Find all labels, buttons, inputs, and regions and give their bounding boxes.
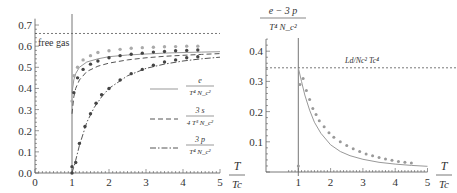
y-tick-label: 0.2 (18, 125, 32, 137)
y-tick-label: 0.1 (18, 146, 32, 158)
data-point (130, 52, 133, 55)
y-tick-label: 0.7 (18, 19, 32, 31)
data-point (163, 60, 166, 63)
data-point (89, 112, 92, 115)
data-point (83, 125, 86, 128)
data-point (96, 51, 99, 54)
data-point (76, 66, 79, 69)
x-tick-label: 4 (392, 176, 398, 188)
data-point (327, 131, 330, 134)
data-point (72, 74, 75, 77)
data-point (94, 102, 97, 105)
x-tick-label: 3 (143, 176, 149, 188)
data-point (141, 68, 144, 71)
data-point (196, 44, 199, 47)
legend-num: 3 p (194, 135, 205, 144)
data-point (345, 144, 348, 147)
data-point (358, 150, 361, 153)
data-point (107, 49, 110, 52)
data-point (89, 54, 92, 57)
x-tick-label: 2 (328, 176, 334, 188)
data-point (118, 78, 121, 81)
data-point (152, 46, 155, 49)
data-point (297, 164, 300, 167)
x-tick-label: 1 (296, 176, 302, 188)
x-tick-label: 0 (32, 176, 38, 188)
x-tick-label: 4 (180, 176, 186, 188)
data-point (130, 72, 133, 75)
y-tick-label: 0.6 (18, 40, 32, 52)
x-axis-label-num: T (441, 159, 449, 173)
y-tick-label: 0.0 (18, 167, 32, 179)
data-point (308, 98, 311, 101)
data-point (378, 156, 381, 159)
data-point (141, 51, 144, 54)
data-point (298, 83, 301, 86)
data-point (107, 56, 110, 59)
ld-label: Ld/Nc² Tc⁴ (344, 56, 379, 65)
data-point (174, 49, 177, 52)
data-point (397, 160, 400, 163)
y-tick-label: 0.1 (249, 136, 263, 148)
left-chart: 0123450.00.10.20.30.40.50.60.7TTcfree ga… (18, 14, 245, 190)
x-axis-label-den: Tc (232, 178, 242, 190)
data-point (339, 140, 342, 143)
data-point (81, 68, 84, 71)
legend: eT⁴ N_c²3 s4 T³ N_c²3 pT⁴ N_c² (150, 76, 214, 156)
y-axis-label-num: e − 3 p (269, 5, 298, 16)
data-point (96, 59, 99, 62)
data-point (196, 48, 199, 51)
data-point (152, 50, 155, 53)
data-point (130, 47, 133, 50)
data-point (390, 159, 393, 162)
y-tick-label: 0.2 (249, 106, 263, 118)
data-point (100, 93, 103, 96)
legend-num: 3 s (194, 106, 204, 115)
x-tick-label: 1 (69, 176, 75, 188)
data-point (74, 161, 77, 164)
x-tick-label: 5 (217, 176, 223, 188)
y-tick-label: 0.4 (18, 82, 32, 94)
data-point (185, 49, 188, 52)
data-point (384, 158, 387, 161)
data-point (89, 62, 92, 65)
y-tick-label: 0.3 (249, 75, 263, 87)
data-point (163, 45, 166, 48)
data-point (410, 161, 413, 164)
y-tick-label: 0.5 (18, 61, 32, 73)
x-tick-label: 2 (106, 176, 112, 188)
data-point (141, 46, 144, 49)
data-point (72, 91, 75, 94)
data-point (352, 147, 355, 150)
data-point (196, 55, 199, 58)
data-point (403, 161, 406, 164)
legend-den: T⁴ N_c² (189, 89, 211, 97)
data-point (318, 119, 321, 122)
series-curve (298, 68, 427, 167)
data-point (371, 154, 374, 157)
y-axis-label-den: T⁴ N_c² (269, 22, 297, 32)
data-point (185, 56, 188, 59)
figure: 0123450.00.10.20.30.40.50.60.7TTcfree ga… (0, 0, 457, 193)
y-tick-label: 0.4 (249, 45, 263, 57)
legend-den: 4 T³ N_c² (187, 119, 214, 127)
data-point (332, 136, 335, 139)
data-point (174, 58, 177, 61)
data-point (78, 142, 81, 145)
data-point (311, 107, 314, 110)
y-tick-label: 0.3 (18, 104, 32, 116)
data-point (174, 45, 177, 48)
legend-num: e (198, 76, 202, 85)
data-point (118, 54, 121, 57)
data-point (81, 58, 84, 61)
data-point (302, 77, 305, 80)
data-point (163, 50, 166, 53)
data-point (76, 76, 79, 79)
data-point (305, 89, 308, 92)
data-point (365, 152, 368, 155)
x-axis-label-num: T (234, 159, 242, 173)
x-tick-label: 3 (360, 176, 366, 188)
x-tick-label: 5 (425, 176, 431, 188)
data-point (185, 44, 188, 47)
right-chart: 123450.10.20.30.4e − 3 pT⁴ N_c²TTcLd/Nc²… (249, 5, 457, 190)
